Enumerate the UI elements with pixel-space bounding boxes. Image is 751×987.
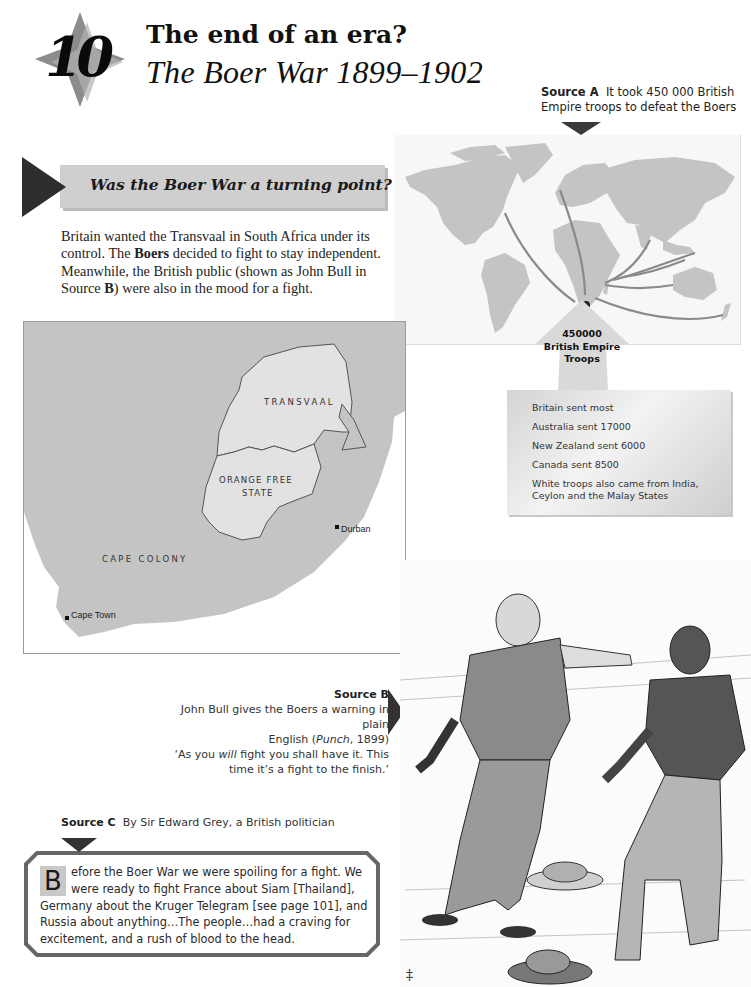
breakdown-item: White troops also came from India, Ceylo… [532,478,721,502]
troops-line1: British Empire [534,341,630,354]
town-marker-durban [335,525,339,529]
breakdown-item: New Zealand sent 6000 [532,440,721,452]
source-ref: B [104,280,114,296]
region-label-ofs-1: ORANGE FREE [219,475,293,485]
south-africa-map: TRANSVAAL ORANGE FREE STATE CAPE COLONY … [23,321,406,654]
source-b-quote: time it’s a fight to the finish.’ [160,762,389,777]
source-a-label: Source A [541,85,599,99]
breakdown-item: Canada sent 8500 [532,459,721,471]
publication-name: Punch [316,733,350,746]
text: , 1899) [350,733,389,746]
source-b-line: English (Punch, 1899) [160,732,389,747]
troops-count: 450000 [534,328,630,341]
region-label-ofs-2: STATE [242,488,274,498]
troops-line2: Troops [534,353,630,366]
breakdown-item: Australia sent 17000 [532,421,721,433]
breakdown-item: Britain sent most [532,402,721,414]
chapter-subtitle: The Boer War 1899–1902 [146,54,483,91]
source-c-label: Source C [61,816,116,829]
intro-paragraph: Britain wanted the Transvaal in South Af… [61,228,381,297]
svg-text:‡: ‡ [406,967,413,983]
source-c-quote: Before the Boer War we were spoiling for… [40,864,370,948]
source-a-pointer-icon [561,122,601,135]
source-b-caption: Source B John Bull gives the Boers a war… [160,687,389,777]
chapter-number: 10 [45,30,108,84]
chapter-title: The end of an era? [146,20,407,49]
region-label-cape-colony: CAPE COLONY [102,554,188,564]
punch-cartoon-illustration: ‡ [400,560,751,987]
south-africa-map-graphic [24,322,406,654]
source-c-caption: Source C By Sir Edward Grey, a British p… [61,816,335,829]
source-b-line: John Bull gives the Boers a warning in p… [160,702,389,732]
chapter-badge: 10 [35,12,125,107]
dropcap-letter: B [40,866,66,896]
keyword-boers: Boers [134,245,169,261]
source-b-label: Source B [160,687,389,702]
source-b-quote: ‘As you will fight you shall have it. Th… [160,747,389,762]
town-label-cape-town: Cape Town [71,610,116,620]
source-c-attribution: By Sir Edward Grey, a British politician [123,816,335,829]
emphasis: will [219,748,237,761]
text: ‘As you [175,748,219,761]
source-c-pointer-icon [61,838,97,852]
source-a-caption: Source A It took 450 000 British Empire … [541,85,751,115]
troops-breakdown-box: Britain sent most Australia sent 17000 N… [507,390,731,515]
text: fight you shall have it. This [237,748,389,761]
quote-body: efore the Boer War we were spoiling for … [40,865,367,946]
banner-arrow-icon [22,157,66,217]
intro-text: ) were also in the mood for a fight. [114,280,313,296]
troops-callout-label: 450000 British Empire Troops [534,328,630,366]
town-marker-cape-town [65,616,69,620]
text: English ( [269,733,317,746]
cartoon-figures-graphic: ‡ [400,560,751,987]
region-label-transvaal: TRANSVAAL [264,397,335,407]
town-label-durban: Durban [341,524,371,534]
section-heading: Was the Boer War a turning point? [90,175,392,194]
